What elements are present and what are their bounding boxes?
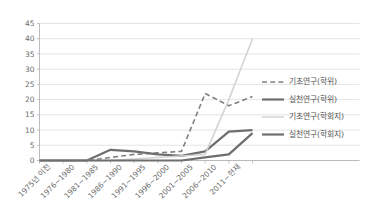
gridlines [40, 24, 360, 161]
chart-legend: 기초연구(학위)실천연구(학위)기초연구(학회지)실천연구(학회지) [262, 76, 344, 139]
legend-label-4: 실천연구(학회지) [289, 129, 344, 139]
legend-label-2: 실천연구(학위) [289, 94, 337, 104]
y-axis [37, 24, 40, 161]
y-tick-label: 25 [25, 80, 35, 89]
y-tick-label: 5 [30, 141, 35, 150]
line-chart: 051015202530354045 1975년 이전1976~19801981… [0, 0, 370, 219]
y-tick-label: 30 [25, 65, 35, 74]
y-tick-label: 45 [25, 19, 35, 28]
y-tick-label: 20 [25, 95, 35, 104]
legend-label-1: 기초연구(학위) [289, 76, 337, 86]
y-tick-labels: 051015202530354045 [25, 19, 35, 165]
legend-label-3: 기초연구(학회지) [289, 111, 344, 121]
series-line-1 [40, 94, 253, 161]
x-tick-labels: 1975년 이전1976~19801981~19851986~19901991~… [16, 162, 242, 201]
chart-container: 051015202530354045 1975년 이전1976~19801981… [0, 0, 370, 219]
y-tick-label: 40 [25, 34, 35, 43]
y-tick-label: 15 [25, 110, 35, 119]
y-tick-label: 35 [25, 50, 35, 59]
y-tick-label: 10 [25, 126, 35, 135]
y-tick-label: 0 [30, 156, 35, 165]
